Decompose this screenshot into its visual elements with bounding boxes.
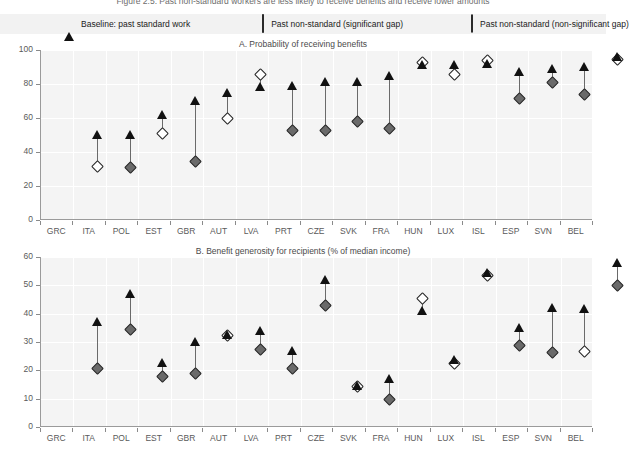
data-point-nonstandard-svn: [578, 345, 591, 358]
y-axis-tick-label: 100: [0, 45, 33, 54]
data-point-nonstandard-svn: [578, 88, 591, 101]
data-point-nonstandard-lva: [286, 124, 299, 137]
data-point-nonstandard-isl: [513, 92, 526, 105]
gridline-vertical: [333, 257, 334, 426]
x-axis-tick-label-grc: GRC: [39, 433, 73, 443]
gridline-vertical: [171, 50, 172, 219]
gridline-horizontal: [41, 186, 592, 187]
data-point-baseline-aut: [255, 82, 265, 91]
gridline-vertical: [236, 257, 237, 426]
x-axis-tick-mark: [72, 221, 73, 225]
gridline-vertical: [268, 50, 269, 219]
data-point-baseline-est: [190, 96, 200, 105]
gridline-vertical: [301, 50, 302, 219]
data-point-baseline-svn: [579, 304, 589, 313]
x-axis-tick-mark: [365, 221, 366, 225]
y-axis-tick-mark: [36, 257, 40, 258]
data-point-nonstandard-hun: [449, 68, 462, 81]
x-axis-tick-label-pol: POL: [104, 433, 138, 443]
x-axis-tick-mark: [105, 428, 106, 432]
gridline-vertical: [366, 257, 367, 426]
x-axis-tick-mark: [495, 428, 496, 432]
data-point-baseline-lva: [287, 81, 297, 90]
data-point-nonstandard-prt: [319, 299, 332, 312]
gridline-vertical: [106, 257, 107, 426]
x-axis-tick-mark: [527, 221, 528, 225]
legend-label-significant: Past non-standard (significant gap): [271, 19, 403, 29]
x-axis-tick-mark: [202, 221, 203, 225]
panel-a: A. Probability of receiving benefits 020…: [0, 38, 606, 244]
gridline-vertical: [333, 50, 334, 219]
x-axis-tick-mark: [235, 428, 236, 432]
gridline-vertical: [496, 257, 497, 426]
gridline-horizontal: [41, 257, 592, 258]
gridline-vertical: [561, 257, 562, 426]
x-axis-tick-label-est: EST: [137, 433, 171, 443]
data-point-baseline-hun: [449, 355, 459, 364]
gridline-vertical: [496, 50, 497, 219]
gridline-vertical: [431, 50, 432, 219]
gridline-vertical: [528, 50, 529, 219]
plot-area-b: [40, 257, 592, 427]
x-axis-tick-mark: [170, 221, 171, 225]
x-axis-tick-mark: [560, 428, 561, 432]
y-axis-tick-label: 20: [0, 181, 33, 190]
data-point-baseline-pol: [157, 358, 167, 367]
data-point-baseline-pol: [157, 110, 167, 119]
legend-label-baseline: Baseline: past standard work: [81, 19, 190, 29]
x-axis-tick-label-svk: SVK: [331, 433, 365, 443]
x-axis-tick-label-lva: LVA: [234, 433, 268, 443]
triangle-filled-icon: [64, 15, 74, 33]
gridline-vertical: [73, 257, 74, 426]
x-axis-tick-mark: [332, 428, 333, 432]
gridline-horizontal: [41, 399, 592, 400]
data-point-baseline-fra: [417, 306, 427, 315]
gridline-horizontal: [41, 118, 592, 119]
data-point-baseline-aut: [255, 326, 265, 335]
gridline-horizontal: [41, 314, 592, 315]
gridline-vertical: [138, 50, 139, 219]
x-axis-tick-label-est: EST: [137, 226, 171, 236]
x-axis-tick-mark: [592, 428, 593, 432]
x-axis-tick-mark: [267, 221, 268, 225]
y-axis-tick-mark: [36, 370, 40, 371]
cut-off-figure-title: Figure 2.5. Past non-standard workers ar…: [0, 0, 606, 6]
data-point-baseline-svk: [384, 71, 394, 80]
connector-line-est: [195, 101, 196, 161]
connector-line-svk: [389, 76, 390, 129]
y-axis-tick-label: 0: [0, 422, 33, 431]
x-axis-tick-mark: [137, 428, 138, 432]
x-axis-tick-mark: [105, 221, 106, 225]
x-axis-tick-mark: [430, 221, 431, 225]
data-point-nonstandard-aut: [254, 68, 267, 81]
x-axis-tick-mark: [527, 428, 528, 432]
data-point-nonstandard-grc: [91, 160, 104, 173]
x-axis-tick-label-lva: LVA: [234, 226, 268, 236]
y-axis-tick-label: 10: [0, 394, 33, 403]
data-point-baseline-ita: [125, 130, 135, 139]
data-point-nonstandard-pol: [156, 370, 169, 383]
gridline-vertical: [106, 50, 107, 219]
x-axis-tick-mark: [235, 221, 236, 225]
data-point-nonstandard-isl: [513, 339, 526, 352]
data-point-nonstandard-bel: [611, 279, 624, 292]
gridline-horizontal: [41, 285, 592, 286]
y-axis-tick-mark: [36, 50, 40, 51]
x-axis-tick-label-ita: ITA: [72, 226, 106, 236]
x-axis-tick-mark: [365, 428, 366, 432]
y-axis-tick-label: 40: [0, 147, 33, 156]
gridline-horizontal: [41, 152, 592, 153]
data-point-nonstandard-est: [189, 155, 202, 168]
x-axis-tick-mark: [495, 221, 496, 225]
data-point-baseline-svn: [579, 62, 589, 71]
gridline-vertical: [138, 257, 139, 426]
x-axis-tick-label-grc: GRC: [39, 226, 73, 236]
panel-b-title: B. Benefit generosity for recipients (% …: [0, 245, 606, 257]
y-axis-tick-label: 60: [0, 252, 33, 261]
x-axis-tick-mark: [332, 221, 333, 225]
x-axis-tick-label-fra: FRA: [364, 433, 398, 443]
gridline-horizontal: [41, 50, 592, 51]
legend-item-non-significant: Past non-standard (non-significant gap): [471, 15, 629, 33]
data-point-baseline-gbr: [222, 88, 232, 97]
data-point-nonstandard-esp: [546, 76, 559, 89]
